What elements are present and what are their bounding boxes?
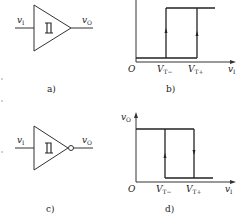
caption-c: c)	[46, 204, 55, 214]
vt-minus-label: VT−	[157, 64, 173, 75]
panel-a-schmitt-buffer: vI vO a)	[15, 5, 93, 94]
origin-label: O	[128, 64, 136, 74]
stray-mark	[1, 100, 3, 102]
output-label: vO	[82, 135, 92, 146]
up-arrow-icon	[196, 31, 199, 36]
down-arrow-icon	[193, 150, 196, 155]
panel-b-transfer-curve: O VT− VT+ vI b)	[128, 0, 236, 94]
origin-label: O	[128, 184, 136, 194]
stray-mark	[1, 78, 3, 80]
vt-minus-label: VT−	[156, 184, 172, 195]
x-axis-label: vI	[225, 184, 233, 195]
up-arrow-icon	[164, 153, 167, 158]
caption-a: a)	[47, 84, 56, 94]
x-axis-arrow-icon	[230, 180, 236, 184]
x-axis-label: vI	[228, 64, 236, 75]
hysteresis-symbol-icon	[45, 23, 53, 33]
vt-plus-label: VT+	[186, 184, 202, 195]
buffer-triangle-icon	[34, 5, 71, 51]
stray-mark	[1, 151, 3, 153]
output-label: vO	[82, 15, 92, 26]
panel-d-transfer-curve: vO O VT− VT+ vI d)	[121, 112, 236, 214]
vt-plus-label: VT+	[188, 64, 204, 75]
up-arrow-icon	[165, 28, 168, 33]
inversion-bubble-icon	[69, 146, 74, 151]
y-axis-label: vO	[121, 112, 131, 123]
caption-d: d)	[165, 204, 174, 214]
y-axis-arrow-icon	[134, 112, 138, 118]
schmitt-trigger-figure: vI vO a) O VT− VT+ vI b) vI vO c)	[0, 0, 243, 218]
panel-c-schmitt-inverter: vI vO c)	[15, 126, 93, 214]
hysteresis-symbol-icon	[45, 143, 53, 153]
input-label: vI	[17, 135, 25, 146]
caption-b: b)	[166, 84, 175, 94]
input-label: vI	[17, 15, 25, 26]
